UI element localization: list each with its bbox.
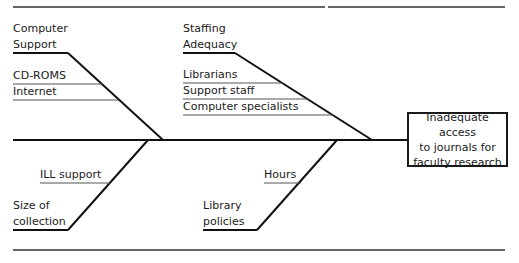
- effect-line1: Inadequate access: [409, 110, 506, 140]
- effect-line3: faculty research: [409, 155, 506, 170]
- category-library-policies-line1: Library: [203, 198, 241, 214]
- cause-hours: Hours: [264, 167, 296, 183]
- effect-box: Inadequate access to journals for facult…: [407, 112, 508, 167]
- bone-size-of-collection: [68, 140, 148, 230]
- category-computer-support-line1: Computer: [13, 21, 68, 37]
- cause-computer-specialists: Computer specialists: [183, 99, 298, 115]
- cause-support-staff: Support staff: [183, 83, 254, 99]
- cause-cd-roms: CD-ROMS: [13, 68, 66, 84]
- category-size-line1: Size of: [13, 198, 50, 214]
- category-library-policies-line2: policies: [203, 214, 244, 230]
- category-staffing-line1: Staffing: [183, 21, 226, 37]
- category-staffing-line2: Adequacy: [183, 37, 237, 53]
- cause-ill-support: ILL support: [40, 167, 101, 183]
- bone-library-policies: [257, 140, 337, 230]
- category-size-line2: collection: [13, 214, 66, 230]
- category-computer-support-line2: Support: [13, 37, 56, 53]
- bone-staffing-adequacy: [235, 53, 372, 140]
- bone-computer-support: [68, 53, 163, 140]
- cause-internet: Internet: [13, 84, 57, 100]
- cause-librarians: Librarians: [183, 67, 237, 83]
- effect-line2: to journals for: [409, 140, 506, 155]
